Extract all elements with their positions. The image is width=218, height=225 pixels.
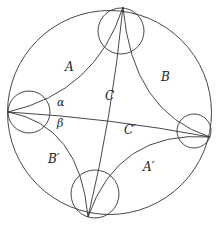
label-A-prime: A′ <box>142 160 155 174</box>
label-C: C <box>105 89 114 103</box>
horocycle-bottom <box>71 170 119 218</box>
label-C-prime: C′ <box>124 123 136 137</box>
label-A: A <box>64 60 74 74</box>
hyperbolic-disk-diagram: A B C C′ B′ A′ α β <box>0 0 218 225</box>
label-alpha: α <box>57 96 65 109</box>
label-B-prime: B′ <box>47 152 60 166</box>
label-B: B <box>160 70 170 84</box>
geodesic-A-prime <box>88 136 210 217</box>
label-beta: β <box>56 117 63 130</box>
